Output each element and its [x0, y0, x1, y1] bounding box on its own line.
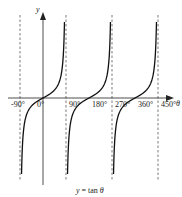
x-tick-label: -90°: [11, 100, 25, 109]
x-tick-label: 90°: [69, 100, 80, 109]
curves: [22, 22, 157, 174]
x-tick-label: 0°: [37, 100, 44, 109]
y-axis-arrow-icon: [40, 12, 46, 20]
y-axis-label: y: [35, 5, 40, 14]
tick-labels: -90°0°90°180°270°360°450°: [11, 100, 176, 109]
x-tick-label: 270°: [115, 100, 130, 109]
caption: y = tan θ: [75, 186, 104, 195]
x-axis-label: θ: [176, 99, 180, 108]
x-tick-label: 450°: [161, 100, 176, 109]
x-tick-label: 180°: [92, 100, 107, 109]
x-tick-label: 360°: [138, 100, 153, 109]
tan-graph: -90°0°90°180°270°360°450° y θ y = tan θ: [0, 0, 182, 197]
